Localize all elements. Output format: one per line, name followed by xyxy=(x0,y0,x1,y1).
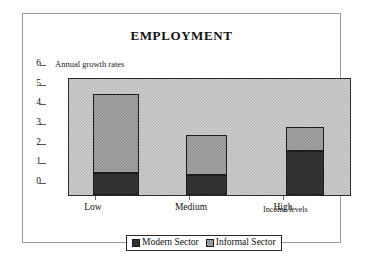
y-tick-label-2: 2 xyxy=(27,138,41,148)
y-axis-title: Annual growth rates xyxy=(55,59,124,69)
y-tick-label-4: 4 xyxy=(27,99,41,109)
bar-high[interactable] xyxy=(286,127,324,195)
legend-label-modern-sector: Modern Sector xyxy=(142,238,199,248)
bar-low-informal-segment[interactable] xyxy=(93,94,139,174)
chart-legend: Modern Sector Informal Sector xyxy=(126,235,282,251)
y-tick-label-3: 3 xyxy=(27,118,41,128)
chart-title: EMPLOYMENT xyxy=(23,28,340,44)
x-tick-mark-low xyxy=(95,196,96,200)
y-tick-label-6: 6 xyxy=(27,59,41,69)
legend-label-informal-sector: Informal Sector xyxy=(216,238,276,248)
plot-area xyxy=(68,78,351,196)
legend-entry-informal-sector[interactable]: Informal Sector xyxy=(206,238,276,248)
legend-entry-modern-sector[interactable]: Modern Sector xyxy=(132,238,199,248)
x-axis-title: Income levels xyxy=(263,205,308,214)
legend-swatch-informal-icon xyxy=(206,239,214,247)
y-tick-label-5: 5 xyxy=(27,79,41,89)
bar-medium-informal-segment[interactable] xyxy=(186,135,227,175)
x-tick-mark-high xyxy=(283,196,284,200)
x-tick-mark-medium xyxy=(189,196,190,200)
x-tick-label-low: Low xyxy=(84,202,101,212)
bar-medium[interactable] xyxy=(186,135,227,195)
y-tick-label-1: 1 xyxy=(27,158,41,168)
legend-swatch-modern-icon xyxy=(132,239,140,247)
bar-low[interactable] xyxy=(93,94,139,195)
bar-high-modern-segment[interactable] xyxy=(286,151,324,195)
bar-high-informal-segment[interactable] xyxy=(286,127,324,151)
bar-medium-modern-segment[interactable] xyxy=(186,175,227,195)
y-tick-label-0: 0 xyxy=(27,177,41,187)
bar-low-modern-segment[interactable] xyxy=(93,173,139,195)
x-tick-label-medium: Medium xyxy=(175,202,207,212)
